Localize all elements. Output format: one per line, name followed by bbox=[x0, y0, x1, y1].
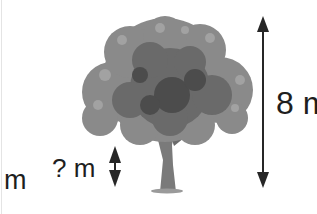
tree-image bbox=[82, 16, 253, 194]
unknown-height-label: ? m bbox=[52, 155, 95, 181]
tree-diagram bbox=[0, 0, 317, 214]
tree-height-label: 8 m bbox=[276, 87, 317, 119]
unknown-height-arrow bbox=[109, 146, 121, 187]
tree-height-arrow bbox=[257, 16, 269, 188]
partial-meter-label: m bbox=[4, 167, 27, 194]
